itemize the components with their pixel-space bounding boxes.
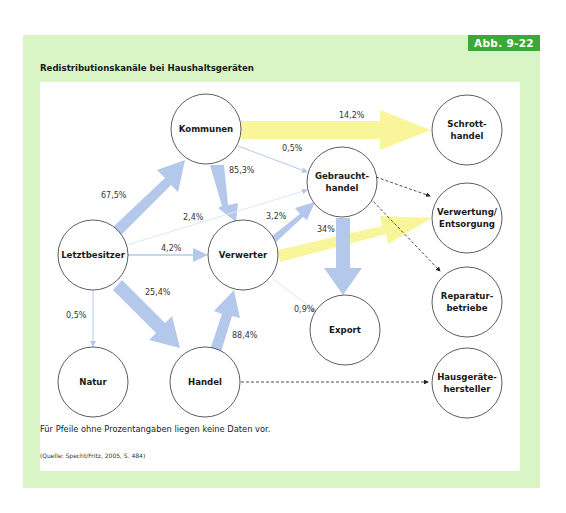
svg-text:betriebe: betriebe [446,303,487,313]
node-kommunen: Kommunen [171,94,241,164]
pct-kommunen-gebraucht: 0,5% [282,144,303,153]
node-verwertung: Verwertung/ Entsorgung [432,183,502,253]
pct-letzt-verwerter: 4,2% [161,244,182,253]
pct-handel-verwerter: 88,4% [232,331,258,340]
svg-text:Kommunen: Kommunen [179,124,234,134]
pct-verwerter-gebraucht: 3,2% [266,212,287,221]
pct-letzt-gebraucht: 2,4% [183,213,204,222]
svg-text:Gebraucht-: Gebraucht- [315,171,370,181]
node-schrotthandel: Schrott- handel [432,95,502,165]
pct-letzt-kommunen: 67,5% [101,191,127,200]
node-verwerter: Verwerter [208,220,278,290]
svg-text:Handel: Handel [188,377,222,387]
flow-diagram: 14,2% 0,5% 85,3% 67,5% 2,4% 3,2% 4,2% 34… [0,0,566,513]
pct-letzt-handel: 25,4% [145,288,171,297]
svg-text:Reparatur-: Reparatur- [441,291,494,301]
node-gebrauchthandel: Gebraucht- handel [307,147,377,217]
svg-text:Export: Export [329,325,361,335]
node-handel: Handel [170,347,240,417]
figure-source: (Quelle: Specht/Fritz, 2005, S. 484) [40,452,145,459]
pct-kommunen-verwerter: 85,3% [229,166,255,175]
arrow-handel-verwerter [210,290,240,352]
svg-text:Hausgeräte-: Hausgeräte- [437,372,497,382]
pct-verwerter-export: 0,9% [294,305,315,314]
svg-text:hersteller: hersteller [443,384,491,394]
node-letztbesitzer: Letztbesitzer [58,220,128,290]
arrow-gebrauchthandel-verwertung [376,177,430,196]
node-hausgeraete: Hausgeräte- hersteller [432,348,502,418]
node-export: Export [310,295,380,365]
pct-letzt-natur: 0,5% [66,311,87,320]
arrow-kommunen-schrotthandel [241,110,431,150]
svg-text:Verwertung/: Verwertung/ [437,207,498,217]
svg-text:Verwerter: Verwerter [219,250,268,260]
pct-kommunen-schrott: 14,2% [339,111,365,120]
svg-text:handel: handel [326,183,359,193]
node-reparatur: Reparatur- betriebe [432,267,502,337]
svg-text:Natur: Natur [79,377,107,387]
figure-note: Für Pfeile ohne Prozentangaben liegen ke… [40,424,270,434]
arrow-verwerter-gebrauchthandel [272,202,315,242]
pct-verwerter-verwertung: 34% [317,225,335,234]
svg-text:handel: handel [451,131,484,141]
node-natur: Natur [58,347,128,417]
svg-text:Letztbesitzer: Letztbesitzer [61,250,126,260]
svg-text:Entsorgung: Entsorgung [439,219,495,229]
svg-text:Schrott-: Schrott- [447,119,487,129]
